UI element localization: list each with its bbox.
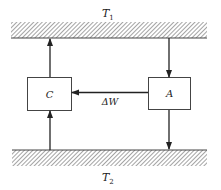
heat-engine-diagram: T1 T2 C A ΔW	[0, 0, 221, 190]
cold-reservoir-label: T2	[102, 171, 114, 186]
work-arrow-label: ΔW	[101, 96, 120, 107]
cold-reservoir: T2	[12, 150, 207, 186]
cold-reservoir-bar	[12, 150, 207, 166]
engine-c-label: C	[46, 89, 54, 100]
engine-a: A	[149, 78, 191, 110]
engine-c: C	[28, 78, 72, 111]
hot-reservoir-bar	[11, 22, 207, 38]
engine-a-label: A	[165, 88, 173, 99]
hot-reservoir: T1	[11, 7, 207, 38]
hot-reservoir-label: T1	[102, 7, 114, 22]
